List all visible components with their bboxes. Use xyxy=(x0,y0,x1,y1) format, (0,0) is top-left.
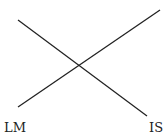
lm-curve xyxy=(18,10,160,107)
diagram-canvas xyxy=(0,0,168,139)
is-lm-diagram: LM IS xyxy=(0,0,168,139)
is-label: IS xyxy=(149,121,163,134)
lm-label: LM xyxy=(4,121,26,134)
is-curve xyxy=(18,20,147,116)
